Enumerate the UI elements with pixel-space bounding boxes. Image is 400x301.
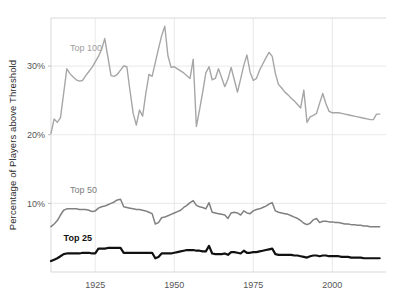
y-axis-tick-labels: 30%20%10% (27, 61, 45, 208)
line-chart: Top 100 Top 50 Top 25 30%20%10% 19251950… (0, 0, 400, 301)
x-axis-tick-labels: 1925195019752000 (85, 280, 342, 290)
y-axis-title: Percentage of Players above Threshold (7, 60, 18, 230)
chart-container: Top 100 Top 50 Top 25 30%20%10% 19251950… (0, 0, 400, 301)
series-label-top-50: Top 50 (70, 185, 97, 195)
series-label-top-25: Top 25 (64, 233, 92, 243)
x-axis-tick-label: 1975 (243, 280, 263, 290)
y-axis-tick-label: 20% (27, 130, 45, 140)
x-axis-tick-label: 1925 (85, 280, 105, 290)
x-axis-tick-label: 2000 (322, 280, 342, 290)
y-axis-tick-label: 30% (27, 61, 45, 71)
plot-background (51, 18, 386, 272)
series-label-top-100: Top 100 (70, 43, 102, 53)
y-axis-tick-label: 10% (27, 199, 45, 209)
x-axis-tick-label: 1950 (164, 280, 184, 290)
